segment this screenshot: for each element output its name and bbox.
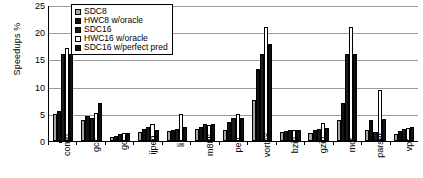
bar-group [219, 6, 247, 141]
x-tick-mark [76, 142, 77, 145]
x-tick-label: gzip [318, 137, 328, 154]
bar-group [276, 6, 304, 141]
legend-swatch-icon [75, 18, 81, 24]
y-tick-label: 15 [19, 56, 45, 64]
x-axis-tick: gcc [76, 143, 104, 178]
x-tick-label: gcc [91, 138, 101, 152]
x-tick-mark [304, 142, 305, 145]
x-tick-mark [247, 142, 248, 145]
bar[interactable] [183, 127, 187, 141]
bar[interactable] [268, 44, 272, 141]
bar[interactable] [98, 103, 102, 141]
x-axis-tick: perl [219, 143, 247, 178]
x-axis-tick: bzip [276, 143, 304, 178]
y-tick-label: 20 [19, 29, 45, 37]
y-tick-label: 25 [19, 2, 45, 10]
x-tick-mark [361, 142, 362, 145]
x-axis-tick: vpr [390, 143, 418, 178]
y-tick-label: 10 [19, 84, 45, 92]
x-axis-tick: comp [48, 143, 76, 178]
x-axis-tick: parser [361, 143, 389, 178]
x-tick-label: vortex [262, 133, 272, 158]
legend-item[interactable]: SDC16 w/perfect pred [75, 43, 168, 52]
x-tick-label: li [176, 143, 186, 147]
y-tick-label: 5 [19, 111, 45, 119]
x-axis-tick: vortex [247, 143, 275, 178]
chart-legend: SDC8HWC8 w/oracleSDC16HWC16 w/oracleSDC1… [71, 4, 173, 55]
x-axis-tick: mcf [333, 143, 361, 178]
x-tick-mark [219, 142, 220, 145]
x-axis-tick: m88k [190, 143, 218, 178]
legend-swatch-icon [75, 9, 81, 15]
legend-label: SDC16 w/perfect pred [84, 43, 168, 52]
bar[interactable] [69, 54, 73, 141]
speedups-bar-chart: Speedups % 0510152025 compgccgoijpeglim8… [0, 0, 423, 178]
x-axis-tick: li [162, 143, 190, 178]
x-tick-label: parser [375, 132, 385, 158]
x-tick-mark [333, 142, 334, 145]
x-tick-mark [276, 142, 277, 145]
x-tick-label: ijpeg [148, 135, 158, 154]
legend-swatch-icon [75, 45, 81, 51]
bar-group [191, 6, 219, 141]
bar-group [248, 6, 276, 141]
x-tick-label: go [119, 140, 129, 150]
x-tick-mark [48, 142, 49, 145]
y-axis-ticks: 0510152025 [14, 0, 45, 178]
bar-group [305, 6, 333, 141]
bar[interactable] [353, 54, 357, 141]
x-tick-label: bzip [290, 137, 300, 154]
legend-swatch-icon [75, 36, 81, 42]
x-axis-tick: go [105, 143, 133, 178]
x-tick-mark [133, 142, 134, 145]
x-tick-mark [190, 142, 191, 145]
bar-group [333, 6, 361, 141]
x-tick-label: mcf [347, 138, 357, 153]
y-tick-label: 0 [19, 138, 45, 146]
x-axis-tick: gzip [304, 143, 332, 178]
bar-group [390, 6, 418, 141]
x-tick-label: m88k [205, 134, 215, 156]
x-tick-label: comp [62, 134, 72, 156]
x-tick-label: vpr [404, 139, 414, 152]
x-tick-mark [105, 142, 106, 145]
x-tick-mark [390, 142, 391, 145]
x-tick-mark [162, 142, 163, 145]
legend-swatch-icon [75, 27, 81, 33]
bar-group [361, 6, 389, 141]
x-axis-tick: ijpeg [133, 143, 161, 178]
x-axis-labels: compgccgoijpeglim88kperlvortexbzipgzipmc… [48, 143, 418, 178]
x-tick-label: perl [233, 137, 243, 152]
